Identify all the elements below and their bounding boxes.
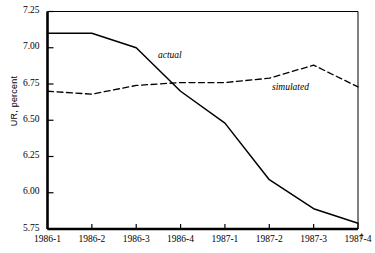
series-line-simulated (48, 65, 359, 94)
chart-figure: UR, percent 5.756.006.256.506.757.007.25… (0, 0, 375, 253)
y-tick-label: 6.25 (6, 150, 40, 160)
data-series (48, 33, 359, 223)
series-label-actual: actual (158, 50, 182, 60)
series-label-simulated: simulated (272, 82, 309, 92)
axis-ticks (48, 12, 359, 230)
y-tick-label: 6.50 (6, 114, 40, 124)
y-axis-title: UR, percent (9, 61, 19, 141)
y-tick-label: 6.00 (6, 186, 40, 196)
x-axis-symbol-label: t (360, 231, 363, 241)
y-tick-label: 5.75 (6, 223, 40, 233)
axis-frame (48, 12, 359, 230)
x-tick-label: 1987-4 (328, 234, 375, 244)
y-tick-label: 7.25 (6, 5, 40, 15)
y-tick-label: 6.75 (6, 78, 40, 88)
series-line-actual (48, 33, 359, 223)
plot-area (0, 0, 375, 253)
y-tick-label: 7.00 (6, 41, 40, 51)
